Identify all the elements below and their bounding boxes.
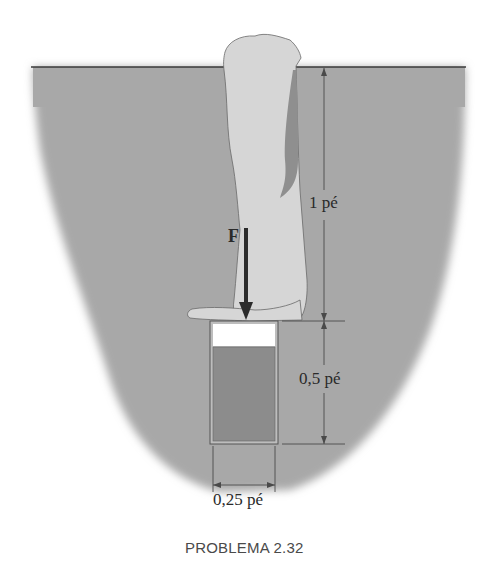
problem-figure: F 1 pé 0,5 pé 0,25 pé PROBLEMA 2.32 (0, 0, 493, 586)
container-fluid (213, 347, 275, 441)
force-label: F (228, 226, 239, 247)
container-air-gap (213, 324, 275, 346)
arm-depth-label: 1 pé (309, 193, 338, 213)
container-height-label: 0,5 pé (299, 369, 341, 389)
figure-caption: PROBLEMA 2.32 (185, 539, 304, 556)
container-width-label: 0,25 pé (213, 490, 263, 510)
